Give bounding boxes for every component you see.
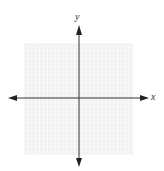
x-axis-label: x bbox=[151, 91, 155, 102]
y-axis-up-arrow-icon bbox=[76, 25, 82, 35]
coordinate-plane bbox=[0, 0, 164, 171]
y-axis-down-arrow-icon bbox=[76, 158, 82, 167]
y-axis-label: y bbox=[75, 11, 79, 22]
x-axis-right-arrow-icon bbox=[140, 95, 149, 101]
x-axis-left-arrow-icon bbox=[8, 95, 17, 101]
